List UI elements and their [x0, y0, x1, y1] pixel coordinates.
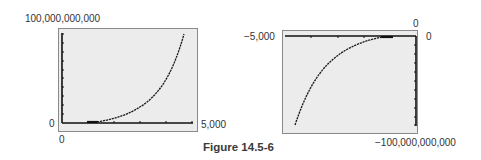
right-plot-frame [283, 31, 418, 134]
left-plot [59, 29, 198, 132]
left-plot-frame [59, 29, 198, 132]
right-plot [283, 31, 418, 134]
figure-caption: Figure 14.5-6 [203, 141, 274, 153]
figure-graphics [0, 0, 481, 160]
